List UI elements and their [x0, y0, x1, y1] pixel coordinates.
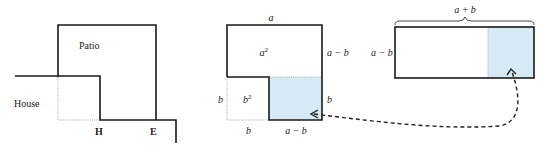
- label-a-minus-b-left: a − b: [371, 47, 393, 58]
- label-a-minus-b-bottom: a − b: [285, 125, 307, 136]
- shaded-region: [269, 77, 322, 120]
- diagram-canvas: Patio House H E a a2 a − b b b2 b b a − …: [0, 0, 539, 151]
- hidden-corner-dotted: [58, 77, 100, 120]
- label-b-left: b: [218, 94, 223, 105]
- product-rectangle-diagram: a + b a − b: [371, 4, 534, 78]
- house-label: House: [14, 98, 40, 109]
- patio-house-diagram: Patio House H E: [14, 25, 176, 143]
- width-brace: [395, 17, 534, 25]
- label-a-minus-b-right: a − b: [327, 47, 349, 58]
- label-b-squared: b2: [243, 93, 252, 105]
- patio-label: Patio: [79, 40, 100, 51]
- point-h-label: H: [95, 126, 103, 137]
- difference-of-squares-diagram: a a2 a − b b b2 b b a − b: [218, 12, 349, 136]
- dashed-arrow-path: [314, 72, 518, 127]
- moved-shaded-region: [488, 27, 534, 78]
- label-a-top: a: [269, 12, 274, 23]
- point-e-label: E: [150, 126, 157, 137]
- label-a-squared: a2: [260, 46, 269, 58]
- label-b-right: b: [327, 94, 332, 105]
- label-a-plus-b: a + b: [454, 4, 476, 15]
- label-b-bottom: b: [246, 125, 251, 136]
- patio-outline: [58, 25, 156, 120]
